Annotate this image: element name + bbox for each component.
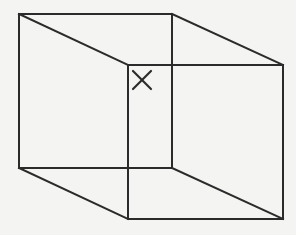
depth-edge-top-left — [19, 14, 128, 65]
cube-wireframe-diagram: Wireframe cube with corner mark Two-dime… — [0, 0, 296, 235]
near-face-region — [19, 14, 172, 168]
depth-connectors-group — [19, 14, 283, 219]
x-mark-icon — [133, 71, 151, 89]
depth-edge-bottom-right — [172, 168, 283, 219]
depth-edge-top-right — [172, 14, 283, 65]
figure-canvas: Wireframe cube with corner mark Two-dime… — [0, 0, 296, 235]
near-face-group — [19, 14, 172, 168]
depth-edge-bottom-left — [19, 168, 128, 219]
